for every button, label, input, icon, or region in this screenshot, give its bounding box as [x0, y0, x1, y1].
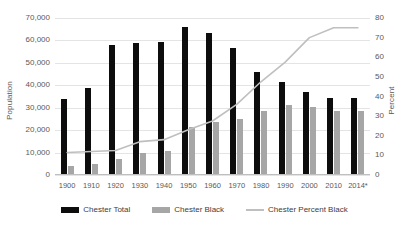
bar-chester-total [109, 45, 115, 175]
x-axis-tick-label: 1900 [55, 180, 79, 192]
bar-group [225, 18, 249, 175]
legend-item[interactable]: Chester Total [61, 205, 130, 214]
bar-series-container [55, 18, 370, 175]
bar-chester-black [189, 127, 195, 175]
y-axis-left-tick-label: 0 [6, 170, 50, 180]
y-axis-right-tick-label: 10 [375, 150, 405, 160]
y-axis-right-tick-label: 20 [375, 131, 405, 141]
bar-chester-black [334, 111, 340, 175]
plot-area [55, 18, 370, 175]
y-axis-right-tick-label: 30 [375, 111, 405, 121]
bar-group [273, 18, 297, 175]
bar-group [322, 18, 346, 175]
bar-chester-black [116, 159, 122, 175]
bar-chester-total [61, 99, 67, 175]
x-axis-tick-label: 1970 [225, 180, 249, 192]
x-axis-tick-label: 1910 [79, 180, 103, 192]
bar-group [79, 18, 103, 175]
bar-chester-black [237, 119, 243, 175]
bar-group [128, 18, 152, 175]
y-axis-right-tick-label: 0 [375, 170, 405, 180]
population-chart: Population Percent 010,00020,00030,00040… [0, 0, 409, 233]
bar-chester-total [327, 98, 333, 175]
legend-swatch-chester-total [61, 207, 79, 213]
bar-chester-total [158, 42, 164, 175]
bar-chester-black [310, 107, 316, 175]
legend-item[interactable]: Chester Black [152, 205, 224, 214]
legend-label: Chester Percent Black [268, 205, 348, 214]
legend-swatch-percent-black [246, 209, 264, 211]
bar-chester-total [303, 92, 309, 175]
y-axis-right-tick-label: 70 [375, 33, 405, 43]
bar-group [249, 18, 273, 175]
x-axis-tick-label: 2010 [322, 180, 346, 192]
bar-chester-black [358, 111, 364, 175]
bar-group [152, 18, 176, 175]
bar-chester-black [261, 111, 267, 175]
bar-group [176, 18, 200, 175]
chart-legend: Chester TotalChester BlackChester Percen… [0, 205, 409, 214]
y-axis-right-ticks: 01020304050607080 [375, 0, 405, 233]
legend-label: Chester Black [174, 205, 224, 214]
gridline [55, 175, 370, 176]
x-axis-tick-label: 2014* [346, 180, 370, 192]
x-axis-tick-label: 1980 [249, 180, 273, 192]
legend-item[interactable]: Chester Percent Black [246, 205, 348, 214]
x-axis-tick-label: 1960 [200, 180, 224, 192]
bar-chester-total [206, 33, 212, 175]
bar-chester-black [286, 105, 292, 175]
y-axis-left-tick-label: 50,000 [6, 58, 50, 68]
bar-chester-total [254, 72, 260, 175]
y-axis-left-tick-label: 30,000 [6, 103, 50, 113]
bar-group [346, 18, 370, 175]
x-axis-tick-label: 1930 [128, 180, 152, 192]
y-axis-left-tick-label: 20,000 [6, 125, 50, 135]
legend-label: Chester Total [83, 205, 130, 214]
y-axis-right-tick-label: 40 [375, 92, 405, 102]
bar-chester-total [133, 43, 139, 175]
y-axis-left-ticks: 010,00020,00030,00040,00050,00060,00070,… [6, 0, 50, 233]
x-axis-line [55, 174, 370, 175]
bar-group [55, 18, 79, 175]
legend-swatch-chester-black [152, 207, 170, 213]
y-axis-right-tick-label: 60 [375, 52, 405, 62]
x-axis-tick-label: 1990 [273, 180, 297, 192]
y-axis-right-tick-label: 50 [375, 72, 405, 82]
x-axis-tick-label: 1940 [152, 180, 176, 192]
x-axis-tick-label: 2000 [297, 180, 321, 192]
y-axis-left-tick-label: 10,000 [6, 148, 50, 158]
y-axis-left-tick-label: 60,000 [6, 35, 50, 45]
bar-group [200, 18, 224, 175]
bar-chester-total [85, 88, 91, 175]
bar-chester-total [230, 48, 236, 175]
bar-group [103, 18, 127, 175]
y-axis-right-tick-label: 80 [375, 13, 405, 23]
x-axis-tick-label: 1950 [176, 180, 200, 192]
bar-chester-total [279, 82, 285, 175]
x-axis-tick-label: 1920 [103, 180, 127, 192]
bar-chester-black [165, 151, 171, 175]
bar-chester-total [182, 27, 188, 175]
bar-chester-total [351, 98, 357, 175]
x-axis-ticks: 1900191019201930194019501960197019801990… [55, 180, 370, 192]
bar-group [297, 18, 321, 175]
bar-chester-black [140, 153, 146, 175]
y-axis-left-tick-label: 40,000 [6, 80, 50, 90]
bar-chester-black [213, 122, 219, 175]
y-axis-left-tick-label: 70,000 [6, 13, 50, 23]
